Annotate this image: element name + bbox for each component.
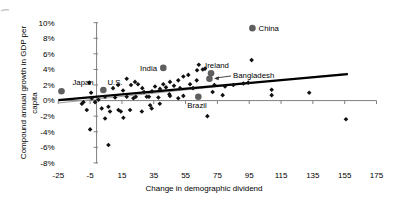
y-tick-label: -6% (40, 143, 54, 152)
country-point-india (160, 65, 167, 72)
y-tick-label: 4% (43, 65, 55, 74)
data-point (168, 80, 173, 85)
data-point (129, 83, 134, 88)
data-point (158, 101, 163, 106)
data-point (195, 68, 200, 73)
x-axis-title: Change in demographic dividend (146, 184, 263, 193)
data-point (220, 93, 225, 98)
data-point (161, 82, 166, 87)
country-label-us: U.S. (107, 78, 122, 87)
country-point-us (100, 87, 107, 94)
scatter-points (80, 58, 349, 147)
y-tick-label: 2% (43, 81, 55, 90)
data-point (121, 115, 126, 120)
country-label-india: India (140, 64, 158, 73)
data-point (181, 94, 186, 99)
country-point-bangladesh (206, 75, 213, 82)
y-axis-title-line1: Compound annual growth in GDP per (19, 26, 28, 160)
demographic-dividend-chart: 10%8%6%4%2%0%-2%-4%-6%-8%-25-51535557595… (0, 0, 397, 207)
y-tick-label: 6% (43, 50, 55, 59)
data-point (241, 81, 246, 86)
data-point (186, 73, 191, 78)
y-tick-label: 10% (38, 19, 54, 28)
data-point (128, 108, 133, 113)
data-point (194, 78, 199, 83)
data-point (269, 93, 274, 98)
data-point (106, 105, 111, 110)
country-point-china (249, 25, 256, 32)
data-point (89, 91, 94, 96)
x-tick-label: 35 (149, 171, 158, 180)
country-label-brazil: Brazil (187, 101, 207, 110)
y-tick-label: -8% (40, 159, 54, 168)
data-point (99, 106, 104, 111)
data-point (140, 86, 145, 91)
data-point (307, 91, 312, 96)
data-point (164, 85, 169, 90)
data-point (103, 116, 108, 121)
y-tick-label: 0% (43, 96, 55, 105)
x-tick-label: 135 (306, 171, 320, 180)
x-tick-label: 15 (117, 171, 126, 180)
data-point (106, 143, 111, 148)
country-label-china: China (259, 24, 280, 33)
x-tick-label: 175 (370, 171, 384, 180)
data-point (124, 76, 129, 81)
country-label-bangladesh: Bangladesh (233, 71, 274, 80)
x-tick-label: -25 (53, 171, 65, 180)
x-tick-label: 155 (338, 171, 352, 180)
x-tick-label: 115 (275, 171, 288, 180)
trend-line (58, 74, 348, 100)
data-point (181, 74, 186, 79)
crop-artifact-mark (1, 10, 9, 11)
data-point (172, 83, 177, 88)
data-point (269, 87, 274, 92)
callout-arrowhead-bangladesh (214, 76, 219, 80)
data-point (84, 108, 89, 113)
data-point (196, 62, 201, 67)
y-tick-labels: 10%8%6%4%2%0%-2%-4%-6%-8% (38, 19, 54, 168)
country-label-japan: Japan (72, 78, 93, 87)
x-tick-label: 75 (213, 171, 222, 180)
data-point (153, 84, 158, 89)
axes (58, 23, 376, 164)
data-point (140, 109, 145, 114)
data-point (344, 117, 349, 122)
country-point-japan (58, 88, 65, 95)
y-tick-label: 8% (43, 34, 55, 43)
data-point (188, 82, 193, 87)
data-point (176, 96, 181, 101)
data-point (108, 109, 113, 114)
data-point (205, 114, 210, 119)
scatter-plot: 10%8%6%4%2%0%-2%-4%-6%-8%-25-51535557595… (0, 0, 397, 207)
country-label-ireland: Ireland (205, 61, 229, 70)
x-tick-label: -5 (87, 171, 95, 180)
data-point (176, 78, 181, 83)
data-point (249, 58, 254, 63)
y-axis-title-line2: capita (30, 92, 39, 114)
x-tick-label: 55 (181, 171, 190, 180)
x-tick-label: 95 (245, 171, 254, 180)
country-point-brazil (195, 93, 202, 100)
data-point (156, 95, 161, 100)
data-point (121, 88, 126, 93)
y-tick-label: -2% (40, 112, 54, 121)
data-point (210, 90, 215, 95)
y-tick-label: -4% (40, 128, 54, 137)
data-point (88, 127, 93, 132)
x-tick-labels: -25-51535557595115135155175 (53, 171, 384, 180)
